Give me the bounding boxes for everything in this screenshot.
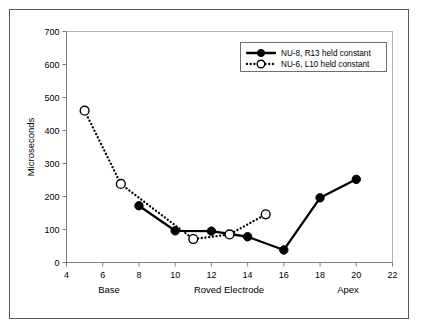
x-tick-labels: 46810121416182022 [64,270,398,280]
y-tick-label: 300 [44,159,59,169]
x-tick-label: 12 [206,270,216,280]
chart-legend: NU-8, R13 held constant NU-6, L10 held c… [241,43,387,72]
y-tick-marks [63,32,67,263]
y-tick-label: 600 [44,60,59,70]
x-tick-label: 16 [279,270,289,280]
data-point-1-2 [189,235,198,244]
x-tick-label: 6 [100,270,105,280]
x-tick-label: 18 [315,270,325,280]
x-axis-title: Roved Electrode [194,284,264,295]
y-tick-labels: 0100200300400500600700 [44,27,59,268]
x-tick-marks [67,263,393,267]
x-tick-label: 14 [243,270,253,280]
legend-swatch-open-circle [257,60,265,68]
data-point-1-0 [80,106,89,115]
data-point-1-1 [116,180,125,189]
data-point-0-2 [207,227,215,235]
y-tick-label: 0 [54,258,59,268]
legend-swatch-filled-circle [257,49,264,56]
y-tick-label: 700 [44,27,59,37]
x-tick-label: 20 [351,270,361,280]
line-chart: 0100200300400500600700 46810121416182022… [0,0,422,333]
y-axis-title: Microseconds [25,117,36,176]
x-axis-apex-label: Apex [337,284,359,295]
y-tick-label: 100 [44,225,59,235]
figure-container: 0100200300400500600700 46810121416182022… [0,0,422,333]
data-point-0-4 [280,246,288,254]
legend-label-nu6: NU-6, L10 held constant [281,60,370,69]
y-tick-label: 500 [44,93,59,103]
x-tick-label: 8 [136,270,141,280]
legend-label-nu8: NU-8, R13 held constant [281,49,371,58]
data-point-0-0 [135,202,143,210]
data-point-0-3 [243,233,251,241]
data-point-1-3 [225,230,234,239]
data-point-0-1 [171,227,179,235]
x-tick-label: 10 [170,270,180,280]
series-line-1 [85,111,266,239]
x-tick-label: 22 [387,270,397,280]
data-point-0-6 [352,175,360,183]
y-tick-label: 400 [44,126,59,136]
data-point-0-5 [316,194,324,202]
x-axis-base-label: Base [98,284,120,295]
x-tick-label: 4 [64,270,69,280]
y-tick-label: 200 [44,192,59,202]
data-series-group [80,106,360,254]
data-point-1-4 [261,210,270,219]
